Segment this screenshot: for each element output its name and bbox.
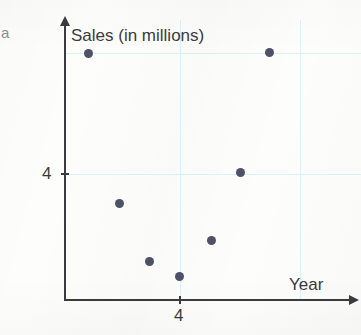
- y-axis-tick-label: 4: [42, 165, 51, 182]
- data-point: [236, 168, 245, 177]
- data-point: [175, 272, 184, 281]
- gridline-vertical-x4: [180, 20, 181, 300]
- x-axis-arrow-icon: [349, 295, 359, 305]
- gridline-horizontal-y4: [65, 174, 361, 175]
- plot-area: 4 4 Sales (in millions) Year a: [0, 0, 361, 335]
- gridline-vertical-right: [300, 20, 301, 300]
- data-point: [207, 236, 216, 245]
- y-axis-arrow-icon: [60, 16, 70, 26]
- x-axis-title: Year: [289, 276, 323, 293]
- data-point: [265, 48, 274, 57]
- y-axis-line: [64, 25, 66, 301]
- data-point: [84, 49, 93, 58]
- panel-letter-label: a: [1, 25, 9, 40]
- scatter-plot-figure: 4 4 Sales (in millions) Year a: [0, 0, 361, 335]
- y-axis-tick-mark: [61, 173, 69, 175]
- data-point: [115, 199, 124, 208]
- x-axis-tick-label: 4: [174, 307, 183, 324]
- y-axis-title: Sales (in millions): [71, 27, 204, 44]
- x-axis-tick-mark: [179, 296, 181, 304]
- gridline-horizontal-upper: [65, 53, 361, 54]
- data-point: [145, 257, 154, 266]
- x-axis-line: [64, 299, 351, 301]
